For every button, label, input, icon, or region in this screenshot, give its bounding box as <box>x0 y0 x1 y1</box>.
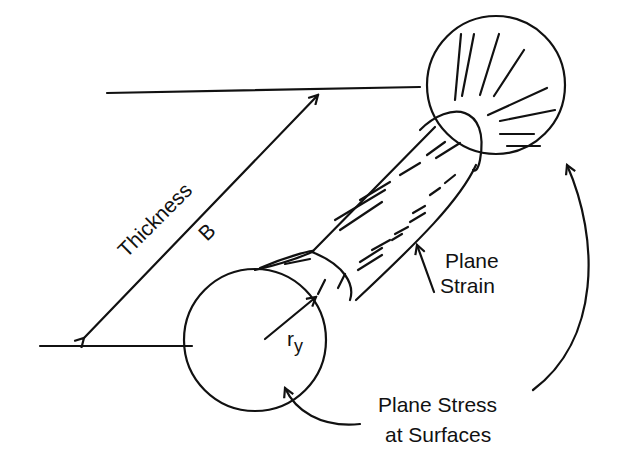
plane-stress-top-pointer <box>533 165 589 390</box>
top-surface-line <box>107 87 420 93</box>
thickness-dimension-arrow <box>84 95 318 338</box>
plane-stress-label-line1: Plane Stress <box>378 393 497 416</box>
plane-strain-label-line2: Strain <box>440 274 495 297</box>
plane-stress-bottom-pointer <box>285 388 360 425</box>
core-upper-edge <box>312 127 435 252</box>
plane-strain-label-line1: Plane <box>445 249 499 272</box>
bottom-plane-stress-zone <box>184 269 326 411</box>
thickness-symbol-group: B <box>194 219 220 245</box>
plastic-zone-diagram: Thickness B ry Plane Strain Plane Stress… <box>0 0 626 472</box>
radius-label: ry <box>287 327 303 356</box>
top-plane-stress-zone <box>427 16 565 154</box>
top-neck-end <box>420 112 482 171</box>
plane-stress-label-line2: at Surfaces <box>385 423 491 446</box>
thickness-label: Thickness <box>113 178 196 261</box>
thickness-label-group: Thickness <box>113 178 196 261</box>
top-zone-slip-lines <box>455 34 555 146</box>
thickness-symbol: B <box>194 219 220 245</box>
plane-strain-pointer-arrow <box>417 245 434 292</box>
bottom-neck-end <box>260 251 351 300</box>
